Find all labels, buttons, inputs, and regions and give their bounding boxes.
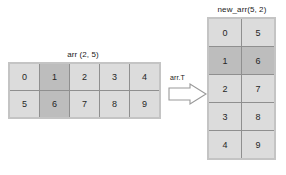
transpose-operation: arr.T bbox=[168, 74, 212, 106]
result-array-frame: 0 5 1 6 2 7 3 8 4 9 bbox=[207, 17, 276, 160]
matrix-cell: 3 bbox=[209, 103, 241, 130]
source-array-frame: 0 1 2 3 4 5 6 7 8 9 bbox=[8, 62, 161, 119]
matrix-cell: 9 bbox=[130, 91, 159, 117]
matrix-cell: 4 bbox=[209, 131, 241, 158]
transpose-operation-label: arr.T bbox=[170, 74, 185, 81]
matrix-cell: 9 bbox=[242, 131, 274, 158]
source-array-title: arr (2, 5) bbox=[8, 50, 158, 59]
matrix-cell: 1 bbox=[209, 47, 241, 74]
matrix-cell: 8 bbox=[242, 103, 274, 130]
matrix-cell: 0 bbox=[10, 64, 39, 90]
matrix-cell: 3 bbox=[100, 64, 129, 90]
result-array-block: new_arr(5, 2) 0 5 1 6 2 7 3 8 4 9 bbox=[207, 5, 277, 160]
result-array-title: new_arr(5, 2) bbox=[207, 5, 277, 14]
matrix-cell: 1 bbox=[40, 64, 69, 90]
matrix-cell: 2 bbox=[70, 64, 99, 90]
result-array-grid: 0 5 1 6 2 7 3 8 4 9 bbox=[209, 19, 274, 158]
matrix-cell: 7 bbox=[70, 91, 99, 117]
right-block-arrow-icon bbox=[168, 83, 208, 105]
matrix-cell: 7 bbox=[242, 75, 274, 102]
matrix-cell: 5 bbox=[242, 19, 274, 46]
matrix-cell: 6 bbox=[40, 91, 69, 117]
source-array-block: arr (2, 5) 0 1 2 3 4 5 6 7 8 9 bbox=[8, 50, 161, 119]
matrix-cell: 2 bbox=[209, 75, 241, 102]
matrix-cell: 8 bbox=[100, 91, 129, 117]
matrix-cell: 4 bbox=[130, 64, 159, 90]
matrix-cell: 6 bbox=[242, 47, 274, 74]
matrix-cell: 0 bbox=[209, 19, 241, 46]
source-array-grid: 0 1 2 3 4 5 6 7 8 9 bbox=[10, 64, 159, 117]
matrix-cell: 5 bbox=[10, 91, 39, 117]
